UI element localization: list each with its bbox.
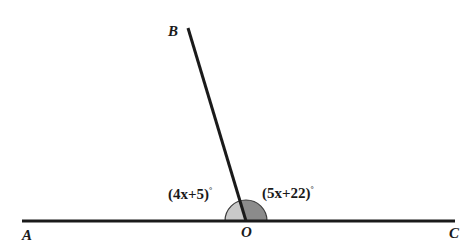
degree-symbol-boc: ° — [311, 185, 314, 194]
geometry-figure: A B C O (4x+5)° (5x+22)° — [0, 0, 471, 248]
point-label-o: O — [241, 225, 252, 240]
angle-expression-aob: (4x+5) — [168, 186, 209, 202]
angle-label-aob: (4x+5)° — [168, 187, 212, 202]
degree-symbol-aob: ° — [209, 186, 212, 195]
point-label-b: B — [168, 24, 178, 39]
point-label-c: C — [449, 226, 459, 241]
angle-expression-boc: (5x+22) — [262, 185, 311, 201]
geometry-canvas — [0, 0, 471, 248]
point-label-a: A — [22, 228, 32, 243]
angle-label-boc: (5x+22)° — [262, 186, 314, 201]
